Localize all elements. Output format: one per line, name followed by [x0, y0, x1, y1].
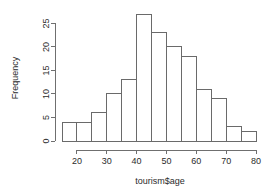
x-axis-tick-label: 80 — [251, 156, 261, 166]
histogram-bar — [211, 99, 226, 141]
y-axis-tick-label: 15 — [41, 65, 51, 75]
histogram-bars — [62, 14, 256, 141]
histogram-bar — [122, 80, 137, 141]
histogram-chart: 0510152025 20304050607080 Frequency tour… — [0, 0, 270, 195]
histogram-bar — [166, 47, 181, 141]
x-axis: 20304050607080 — [72, 150, 261, 166]
x-axis-tick-label: 60 — [191, 156, 201, 166]
x-axis-tick-label: 40 — [132, 156, 142, 166]
histogram-bar — [62, 122, 77, 141]
histogram-bar — [107, 94, 122, 141]
histogram-bar — [181, 56, 196, 141]
x-axis-tick-label: 50 — [161, 156, 171, 166]
x-axis-tick-label: 20 — [72, 156, 82, 166]
x-axis-tick-label: 70 — [221, 156, 231, 166]
histogram-bar — [196, 89, 211, 141]
x-axis-tick-label: 30 — [102, 156, 112, 166]
histogram-bar — [92, 113, 107, 141]
y-axis-tick-label: 0 — [41, 138, 51, 143]
y-axis-tick-label: 10 — [41, 89, 51, 99]
y-axis-tick-label: 20 — [41, 42, 51, 52]
y-axis: 0510152025 — [41, 18, 55, 143]
y-axis-tick-label: 5 — [41, 115, 51, 120]
x-axis-title: tourism$age — [135, 176, 185, 186]
y-axis-title: Frequency — [10, 56, 20, 99]
histogram-bar — [152, 33, 167, 141]
y-axis-tick-label: 25 — [41, 18, 51, 28]
histogram-bar — [77, 122, 92, 141]
histogram-bar — [241, 132, 256, 141]
histogram-plot-panel: 0510152025 20304050607080 Frequency tour… — [0, 0, 270, 195]
histogram-bar — [137, 14, 152, 141]
histogram-bar — [226, 127, 241, 141]
